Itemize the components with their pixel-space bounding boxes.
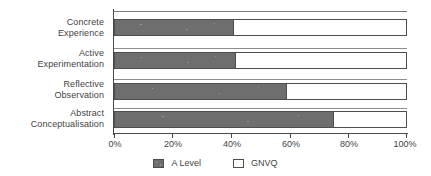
bar-segment-a-level bbox=[114, 111, 334, 128]
bar-segment-a-level bbox=[114, 52, 236, 69]
x-tick bbox=[172, 134, 173, 138]
bar-segment-gnvq bbox=[234, 19, 407, 36]
bar-row bbox=[114, 19, 407, 36]
bar-row bbox=[114, 83, 407, 100]
category-label-concrete-experience: Concrete Experience bbox=[0, 17, 104, 38]
gridline bbox=[114, 48, 407, 49]
legend-label: GNVQ bbox=[251, 158, 278, 169]
legend-entry-a-level: A Level bbox=[153, 158, 201, 169]
x-tick-label: 20% bbox=[164, 139, 182, 150]
category-label-line: Abstract bbox=[0, 108, 104, 119]
bar-segment-gnvq bbox=[236, 52, 407, 69]
x-tick-label: 40% bbox=[223, 139, 241, 150]
legend-entry-gnvq: GNVQ bbox=[233, 158, 278, 169]
chart-legend: A Level GNVQ bbox=[0, 155, 431, 171]
x-tick-label: 0% bbox=[108, 139, 121, 150]
category-label-active-experimentation: Active Experimentation bbox=[0, 48, 104, 69]
plot-top-rule bbox=[114, 11, 407, 12]
x-tick bbox=[348, 134, 349, 138]
category-label-line: Experimentation bbox=[0, 59, 104, 70]
category-label-reflective-observation: Reflective Observation bbox=[0, 79, 104, 100]
category-label-line: Active bbox=[0, 48, 104, 59]
bar-segment-a-level bbox=[114, 19, 234, 36]
category-label-line: Observation bbox=[0, 90, 104, 101]
bar-segment-gnvq bbox=[334, 111, 407, 128]
x-tick bbox=[231, 134, 232, 138]
x-tick-label: 60% bbox=[282, 139, 300, 150]
x-tick bbox=[406, 134, 407, 138]
x-axis-tick-labels: 0% 20% 40% 60% 80% 100% bbox=[114, 139, 407, 151]
category-label-line: Experience bbox=[0, 28, 104, 39]
x-tick-label: 100% bbox=[393, 139, 416, 150]
x-tick-label: 80% bbox=[340, 139, 358, 150]
stacked-bar-chart: Concrete Experience Active Experimentati… bbox=[0, 0, 431, 176]
category-axis-labels: Concrete Experience Active Experimentati… bbox=[0, 11, 110, 133]
legend-swatch-icon bbox=[153, 159, 164, 168]
bar-segment-a-level bbox=[114, 83, 287, 100]
legend-swatch-icon bbox=[233, 159, 244, 168]
category-label-line: Concrete bbox=[0, 17, 104, 28]
bar-row bbox=[114, 52, 407, 69]
bar-row bbox=[114, 111, 407, 128]
bar-segment-gnvq bbox=[287, 83, 407, 100]
gridline bbox=[114, 79, 407, 80]
category-label-line: Conceptualisation bbox=[0, 119, 104, 130]
gridline bbox=[114, 108, 407, 109]
plot-area bbox=[114, 11, 407, 133]
category-label-line: Reflective bbox=[0, 79, 104, 90]
legend-label: A Level bbox=[171, 158, 201, 169]
category-label-abstract-conceptualisation: Abstract Conceptualisation bbox=[0, 108, 104, 129]
x-tick bbox=[114, 134, 115, 138]
x-tick bbox=[290, 134, 291, 138]
